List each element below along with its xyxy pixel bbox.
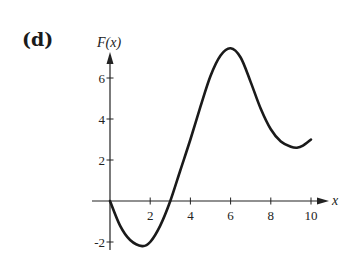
x-tick-label: 6 (227, 208, 234, 223)
chart: xF(x)246810-2246 (0, 0, 354, 265)
x-tick-label: 10 (305, 208, 318, 223)
x-tick-label: 2 (147, 208, 154, 223)
x-axis-title: x (331, 193, 339, 208)
x-axis-arrow-icon (317, 198, 329, 205)
y-tick-label: -2 (94, 235, 105, 250)
x-tick-label: 8 (268, 208, 275, 223)
y-tick-label: 2 (99, 153, 106, 168)
y-axis-arrow-icon (107, 52, 114, 64)
function-curve (110, 48, 311, 246)
y-tick-label: 4 (99, 112, 106, 127)
x-tick-label: 4 (187, 208, 194, 223)
y-axis-title: F(x) (96, 35, 121, 51)
y-tick-label: 6 (99, 71, 106, 86)
